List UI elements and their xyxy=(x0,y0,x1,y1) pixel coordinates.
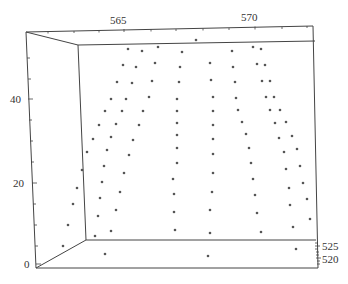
box-edge-left-outer xyxy=(26,32,36,268)
data-point xyxy=(104,253,107,256)
data-point xyxy=(295,248,298,251)
box-edge-right-outer xyxy=(313,26,318,268)
data-point xyxy=(157,46,160,49)
data-point xyxy=(278,137,281,140)
plot-box-frame xyxy=(26,26,318,268)
data-point xyxy=(173,211,176,214)
data-point xyxy=(67,224,70,227)
data-point xyxy=(176,122,179,125)
data-point xyxy=(98,124,101,127)
data-point xyxy=(252,46,255,49)
data-point xyxy=(176,110,179,113)
data-point xyxy=(122,64,125,67)
data-point xyxy=(212,153,215,156)
data-point xyxy=(231,50,234,53)
data-point xyxy=(106,149,109,152)
data-point xyxy=(142,110,145,113)
data-point xyxy=(123,172,126,175)
y-tick-label-520: 520 xyxy=(322,253,339,265)
data-point xyxy=(306,198,309,201)
data-point xyxy=(211,191,214,194)
data-point xyxy=(261,80,264,83)
data-point xyxy=(72,203,75,206)
data-point xyxy=(154,62,157,65)
data-point xyxy=(148,96,151,99)
data-point xyxy=(94,235,97,238)
data-point xyxy=(292,226,295,229)
data-point xyxy=(125,98,128,101)
data-point xyxy=(101,181,104,184)
data-point xyxy=(248,147,251,150)
data-point xyxy=(138,124,141,127)
box-edge-top-left-depth xyxy=(26,32,78,45)
data-point xyxy=(174,229,177,232)
data-point xyxy=(110,98,113,101)
data-point xyxy=(212,96,215,99)
data-point xyxy=(207,255,210,258)
z-tick-label-20: 20 xyxy=(13,177,25,189)
data-point xyxy=(252,178,255,181)
data-point xyxy=(291,135,294,138)
data-point xyxy=(288,187,291,190)
data-point xyxy=(176,98,179,101)
data-point xyxy=(210,79,213,82)
data-point xyxy=(209,209,212,212)
box-edge-top-outer xyxy=(26,26,313,32)
data-point xyxy=(181,51,184,54)
data-point xyxy=(179,66,182,69)
data-point xyxy=(176,147,179,150)
data-point xyxy=(285,121,288,124)
data-point xyxy=(212,172,215,175)
x-tick-label-565: 565 xyxy=(110,14,127,26)
data-point xyxy=(260,48,263,51)
x-tick-label-570: 570 xyxy=(241,11,258,23)
data-point xyxy=(209,232,212,235)
box-edge-top-back xyxy=(78,41,315,45)
data-points xyxy=(62,39,312,258)
data-point xyxy=(141,50,144,53)
data-point xyxy=(285,168,288,171)
y-tick-label-525: 525 xyxy=(322,240,339,252)
3d-scatter-plot: 565 570 40 20 0 525 520 xyxy=(0,0,348,284)
data-point xyxy=(151,80,154,83)
data-point xyxy=(283,151,286,154)
data-point xyxy=(131,82,134,85)
data-point xyxy=(132,139,135,142)
data-point xyxy=(212,138,215,141)
data-point xyxy=(237,109,240,112)
data-point xyxy=(128,154,131,157)
data-point xyxy=(115,123,118,126)
data-point xyxy=(241,121,244,124)
axis-ticks xyxy=(27,26,321,264)
data-point xyxy=(209,62,212,65)
data-point xyxy=(264,64,267,67)
z-tick-label-0: 0 xyxy=(24,258,30,270)
data-point xyxy=(176,162,179,165)
data-point xyxy=(135,66,138,69)
data-point xyxy=(76,187,79,190)
data-point xyxy=(235,97,238,100)
data-point xyxy=(256,212,259,215)
data-point xyxy=(119,191,122,194)
data-point xyxy=(289,204,292,207)
box-edge-left-back xyxy=(78,45,86,240)
data-point xyxy=(86,151,89,154)
data-point xyxy=(121,110,124,113)
data-point xyxy=(260,231,263,234)
data-point xyxy=(172,178,175,181)
data-point xyxy=(116,81,119,84)
data-point xyxy=(97,215,100,218)
data-point xyxy=(212,124,215,127)
data-point xyxy=(256,63,259,66)
data-point xyxy=(92,138,95,141)
data-point xyxy=(173,193,176,196)
data-point xyxy=(99,197,102,200)
data-point xyxy=(110,136,113,139)
data-point xyxy=(62,245,65,248)
data-point xyxy=(234,81,237,84)
data-point xyxy=(250,162,253,165)
data-point xyxy=(176,134,179,137)
data-point xyxy=(127,48,130,51)
data-point xyxy=(103,165,106,168)
data-point xyxy=(309,218,312,221)
